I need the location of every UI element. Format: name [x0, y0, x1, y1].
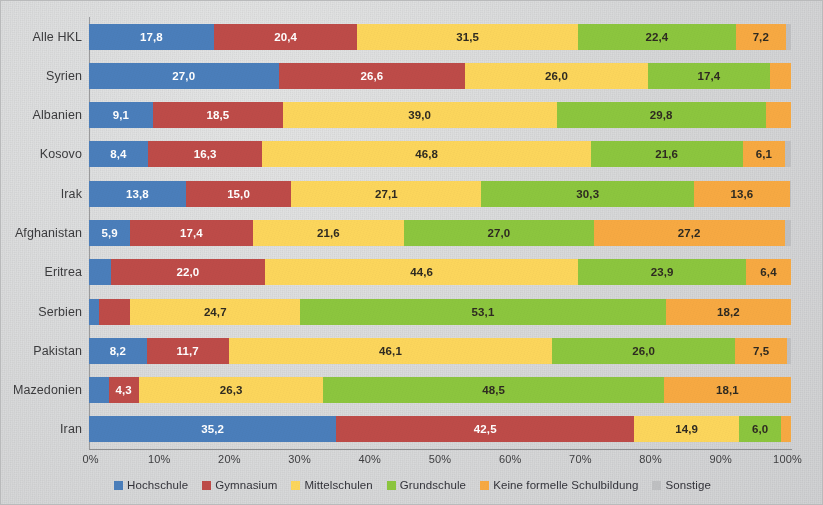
legend-swatch-icon — [652, 481, 661, 490]
bar-row: Albanien9,118,539,029,8 — [89, 102, 791, 128]
bar-segment-value: 6,4 — [760, 266, 776, 278]
bar-row: Pakistan8,211,746,126,07,5 — [89, 338, 791, 364]
bar-segment-value: 8,2 — [110, 345, 126, 357]
bar-segment: 22,0 — [111, 259, 265, 285]
bar-segment-value: 18,1 — [716, 384, 739, 396]
legend-swatch-icon — [114, 481, 123, 490]
category-label: Mazedonien — [0, 377, 82, 403]
bar-segment: 17,4 — [648, 63, 770, 89]
bar-segment-value: 4,3 — [116, 384, 132, 396]
bar-segment-value: 46,1 — [379, 345, 402, 357]
bar-segment: 53,1 — [300, 299, 665, 325]
bar-segment-value: 6,1 — [756, 148, 772, 160]
legend-label: Sonstige — [665, 479, 711, 491]
bar-segment — [785, 141, 791, 167]
bar-segment — [781, 416, 791, 442]
bar-segment-value: 27,0 — [172, 70, 195, 82]
bar-segment-value: 21,6 — [655, 148, 678, 160]
bar-segment — [787, 338, 791, 364]
bar-segment: 35,2 — [89, 416, 336, 442]
bar-segment-value: 17,4 — [180, 227, 203, 239]
legend-label: Hochschule — [127, 479, 188, 491]
bar-segment: 31,5 — [357, 24, 578, 50]
category-label: Afghanistan — [0, 220, 82, 246]
bar-segment: 4,3 — [109, 377, 139, 403]
chart-legend: HochschuleGymnasiumMittelschulenGrundsch… — [1, 479, 823, 491]
bar-segment: 27,1 — [291, 181, 481, 207]
category-label: Alle HKL — [0, 24, 82, 50]
bar-segment: 15,0 — [186, 181, 291, 207]
legend-swatch-icon — [480, 481, 489, 490]
bar-segment-value: 21,6 — [317, 227, 340, 239]
bar-segment — [99, 299, 130, 325]
bar-segment-value: 14,9 — [675, 423, 698, 435]
bar-segment: 26,0 — [465, 63, 648, 89]
category-label: Albanien — [0, 102, 82, 128]
bar-segment-value: 5,9 — [102, 227, 118, 239]
category-label: Iran — [0, 416, 82, 442]
bar-segment-value: 20,4 — [274, 31, 297, 43]
stacked-bar-chart-figure: Alle HKL17,820,431,522,47,2Syrien27,026,… — [0, 0, 823, 505]
category-label: Syrien — [0, 63, 82, 89]
x-tick-label: 0% — [82, 453, 98, 465]
category-label: Serbien — [0, 299, 82, 325]
category-label: Eritrea — [0, 259, 82, 285]
bar-segment-value: 27,2 — [678, 227, 701, 239]
bar-segment — [766, 102, 791, 128]
bar-segment: 14,9 — [634, 416, 739, 442]
bar-segment-value: 24,7 — [204, 306, 227, 318]
bar-segment: 7,2 — [736, 24, 787, 50]
legend-item[interactable]: Gymnasium — [202, 479, 277, 491]
legend-item[interactable]: Hochschule — [114, 479, 188, 491]
x-axis-line — [89, 449, 792, 450]
bar-segment: 26,3 — [139, 377, 324, 403]
x-tick-label: 60% — [499, 453, 522, 465]
legend-item[interactable]: Mittelschulen — [291, 479, 372, 491]
x-tick-label: 30% — [288, 453, 311, 465]
bar-segment-value: 22,0 — [177, 266, 200, 278]
bar-segment-value: 13,8 — [126, 188, 149, 200]
bar-segment — [790, 181, 791, 207]
bar-segment-value: 42,5 — [474, 423, 497, 435]
bar-row: Mazedonien4,326,348,518,1 — [89, 377, 791, 403]
bar-row: Syrien27,026,626,017,4 — [89, 63, 791, 89]
bar-segment — [785, 220, 791, 246]
bar-row: Kosovo8,416,346,821,66,1 — [89, 141, 791, 167]
legend-item[interactable]: Grundschule — [387, 479, 466, 491]
bar-segment: 27,0 — [89, 63, 279, 89]
x-tick-label: 80% — [639, 453, 662, 465]
bar-segment: 18,2 — [666, 299, 791, 325]
x-tick-label: 70% — [569, 453, 592, 465]
bar-segment: 26,0 — [552, 338, 735, 364]
bar-row: Irak13,815,027,130,313,6 — [89, 181, 791, 207]
bar-segment: 48,5 — [323, 377, 663, 403]
bar-segment: 42,5 — [336, 416, 634, 442]
legend-label: Keine formelle Schulbildung — [493, 479, 638, 491]
bar-segment-value: 8,4 — [110, 148, 126, 160]
bar-row: Afghanistan5,917,421,627,027,2 — [89, 220, 791, 246]
bar-segment: 46,8 — [262, 141, 591, 167]
category-label: Kosovo — [0, 141, 82, 167]
bar-segment-value: 22,4 — [646, 31, 669, 43]
bar-segment: 39,0 — [283, 102, 557, 128]
x-tick-label: 20% — [218, 453, 241, 465]
bar-segment-value: 48,5 — [482, 384, 505, 396]
x-axis-tick-labels: 0%10%20%30%40%50%60%70%80%90%100% — [89, 453, 791, 469]
legend-item[interactable]: Keine formelle Schulbildung — [480, 479, 638, 491]
bar-segment: 13,6 — [694, 181, 789, 207]
bar-segment: 17,8 — [89, 24, 214, 50]
bar-segment: 6,0 — [739, 416, 781, 442]
x-tick-label: 90% — [709, 453, 732, 465]
legend-swatch-icon — [387, 481, 396, 490]
bar-segment: 9,1 — [89, 102, 153, 128]
bar-segment-value: 13,6 — [730, 188, 753, 200]
bar-row: Iran35,242,514,96,0 — [89, 416, 791, 442]
bar-segment: 5,9 — [89, 220, 130, 246]
bar-segment: 8,4 — [89, 141, 148, 167]
legend-label: Mittelschulen — [304, 479, 372, 491]
bar-segment: 8,2 — [89, 338, 147, 364]
bar-segment-value: 17,4 — [697, 70, 720, 82]
category-label: Irak — [0, 181, 82, 207]
bar-segment-value: 17,8 — [140, 31, 163, 43]
legend-item[interactable]: Sonstige — [652, 479, 711, 491]
